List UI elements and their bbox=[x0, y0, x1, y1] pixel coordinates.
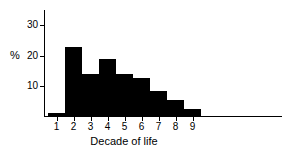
histogram-bar bbox=[167, 100, 184, 117]
x-axis-title: Decade of life bbox=[44, 135, 204, 147]
histogram-chart: % 102030 123456789 Decade of life bbox=[0, 0, 286, 152]
histogram-bar bbox=[48, 113, 65, 116]
y-tick-label-wrap: 20 bbox=[0, 51, 38, 61]
y-tick-label: 20 bbox=[27, 51, 38, 61]
histogram-bar bbox=[184, 109, 201, 117]
histogram-bar bbox=[116, 74, 133, 117]
histogram-bar bbox=[133, 78, 150, 116]
y-tick-label: 30 bbox=[27, 20, 38, 30]
y-tick-label: 10 bbox=[27, 81, 38, 91]
y-tick-label-wrap: 30 bbox=[0, 20, 38, 30]
histogram-bar bbox=[82, 74, 99, 117]
histogram-bar bbox=[99, 59, 116, 117]
x-tick-label: 9 bbox=[183, 121, 203, 132]
histogram-bar bbox=[150, 91, 167, 117]
histogram-bar bbox=[65, 47, 82, 117]
plot-area bbox=[44, 10, 244, 117]
y-tick-label-wrap: 10 bbox=[0, 81, 38, 91]
